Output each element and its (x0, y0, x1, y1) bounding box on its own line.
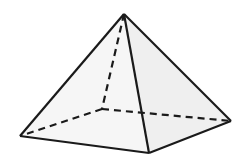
pyramid-diagram (0, 0, 244, 165)
